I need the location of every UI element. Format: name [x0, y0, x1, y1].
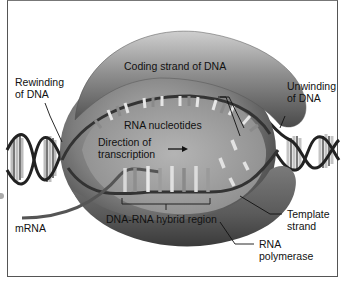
label-unwinding-line1: Unwinding [287, 80, 336, 92]
label-rewinding-line2: of DNA [15, 88, 49, 100]
label-template-line2: strand [287, 220, 316, 232]
label-direction-line2: transcription [98, 148, 155, 160]
label-polymerase-line2: polymerase [259, 250, 313, 262]
label-unwinding-line2: of DNA [287, 92, 321, 104]
label-polymerase-line1: RNA [259, 238, 281, 250]
label-rewinding-line1: Rewinding [15, 76, 64, 88]
label-template-line1: Template [287, 208, 330, 220]
transcription-diagram [0, 0, 341, 281]
label-hybrid-region: DNA-RNA hybrid region [106, 213, 217, 225]
label-direction-line1: Direction of [98, 136, 151, 148]
label-rna-nucleotides: RNA nucleotides [124, 119, 202, 131]
left-dna-helix [7, 135, 68, 184]
label-coding-strand: Coding strand of DNA [124, 60, 226, 72]
label-mrna: mRNA [15, 222, 46, 234]
